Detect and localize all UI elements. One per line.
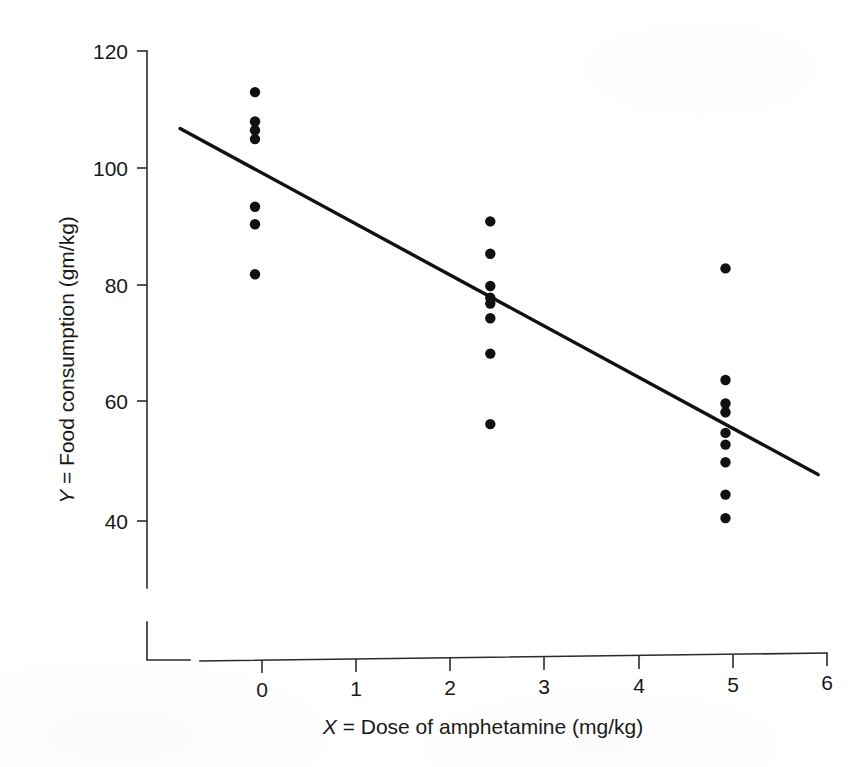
data-point — [250, 134, 260, 144]
data-point — [485, 249, 495, 259]
y-axis: 120 100 80 60 40 — [93, 40, 190, 660]
data-point — [485, 419, 495, 429]
data-point — [485, 216, 495, 226]
y-tick-label-120: 120 — [93, 40, 128, 63]
x-tick-label-3: 3 — [538, 675, 550, 698]
x-tick-label-4: 4 — [633, 674, 645, 697]
regression-line — [180, 129, 818, 475]
x-axis-title-text: = Dose of amphetamine (mg/kg) — [337, 715, 643, 738]
y-tick-label-60: 60 — [105, 390, 128, 413]
y-axis-lower-stub — [147, 622, 190, 660]
data-point — [720, 439, 730, 449]
x-tick-label-0: 0 — [256, 678, 268, 701]
svg-text:Y = Food consumption (gm/kg): Y = Food consumption (gm/kg) — [55, 216, 78, 504]
data-point — [485, 298, 495, 308]
x-axis-title-variable: X — [322, 715, 338, 738]
y-tick-label-100: 100 — [93, 157, 128, 180]
data-point — [720, 428, 730, 438]
y-axis-ticks — [137, 51, 147, 521]
data-point — [720, 513, 730, 523]
y-axis-tick-labels: 120 100 80 60 40 — [93, 40, 128, 533]
x-tick-label-1: 1 — [350, 677, 362, 700]
data-point — [720, 375, 730, 385]
data-point — [485, 348, 495, 358]
x-tick-label-2: 2 — [444, 676, 456, 699]
y-axis-title-group: Y = Food consumption (gm/kg) — [55, 216, 78, 504]
x-tick-label-6: 6 — [821, 671, 833, 694]
x-axis-tick-labels: 0 1 2 3 4 5 6 — [256, 671, 833, 701]
data-point — [250, 219, 260, 229]
y-tick-label-40: 40 — [105, 510, 128, 533]
data-point — [720, 407, 730, 417]
data-point — [720, 489, 730, 499]
x-axis-title: X = Dose of amphetamine (mg/kg) — [322, 715, 643, 738]
scatter-plot-figure: 120 100 80 60 40 Y = Food consumption (g… — [0, 0, 864, 767]
data-point — [720, 263, 730, 273]
data-point — [720, 457, 730, 467]
plot-canvas: 120 100 80 60 40 Y = Food consumption (g… — [0, 0, 864, 767]
data-points-layer — [250, 87, 731, 523]
y-tick-label-80: 80 — [105, 274, 128, 297]
x-tick-label-5: 5 — [727, 673, 739, 696]
data-point — [485, 281, 495, 291]
data-point — [250, 269, 260, 279]
data-point — [250, 202, 260, 212]
y-axis-title-text: = Food consumption (gm/kg) — [55, 216, 78, 490]
data-point — [485, 313, 495, 323]
x-axis: 0 1 2 3 4 5 6 — [200, 653, 833, 701]
data-point — [250, 87, 260, 97]
